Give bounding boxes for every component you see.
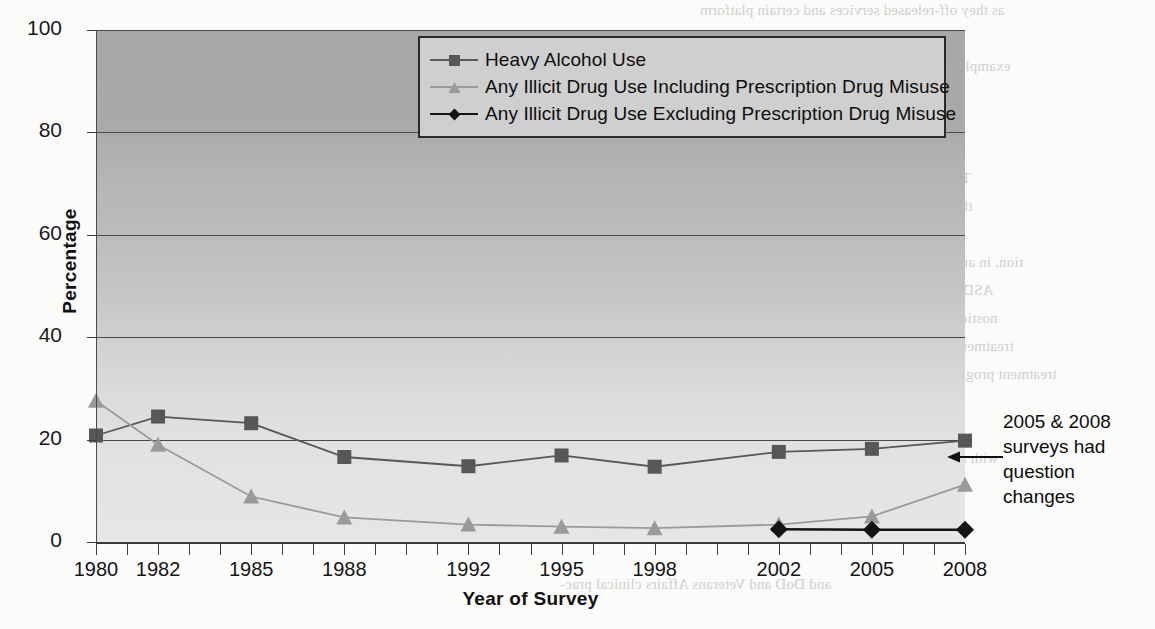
data-point-triangle <box>243 488 259 503</box>
y-axis-tick <box>87 132 96 133</box>
annotation-note: 2005 & 2008 surveys had question changes <box>1003 409 1151 509</box>
annotation-line: question <box>1003 459 1151 484</box>
data-point-triangle <box>957 477 973 492</box>
legend-marker-square <box>430 50 478 70</box>
legend-label: Any Illicit Drug Use Excluding Prescript… <box>485 103 956 125</box>
x-axis-tick <box>437 544 438 555</box>
x-axis-tick <box>779 544 780 555</box>
x-axis-tick-label: 1995 <box>539 558 584 581</box>
y-axis-line <box>96 30 97 542</box>
data-point-square <box>648 460 662 474</box>
data-point-square <box>958 434 972 448</box>
line-chart: 020406080100 Percentage 1980198219851988… <box>0 0 1155 629</box>
data-point-square <box>865 442 879 456</box>
x-axis-tick-label: 1998 <box>632 558 677 581</box>
x-axis-tick <box>406 544 407 555</box>
data-point-square <box>244 416 258 430</box>
y-axis-title: Percentage <box>59 151 81 371</box>
y-axis-tick <box>87 440 96 441</box>
x-axis-title: Year of Survey <box>96 588 965 610</box>
data-point-triangle <box>150 437 166 452</box>
x-axis-tick <box>220 544 221 555</box>
x-axis-tick <box>344 544 345 555</box>
annotation-line: surveys had <box>1003 434 1151 459</box>
x-axis-tick <box>903 544 904 555</box>
annotation-line: changes <box>1003 484 1151 509</box>
x-axis-tick <box>158 544 159 555</box>
x-axis-tick <box>655 544 656 555</box>
x-axis-tick <box>872 544 873 555</box>
x-axis-tick-label: 1988 <box>322 558 367 581</box>
legend-item[interactable]: Any Illicit Drug Use Including Prescript… <box>430 73 934 100</box>
x-axis-tick-label: 2005 <box>850 558 895 581</box>
x-axis-tick <box>282 544 283 555</box>
legend-label: Heavy Alcohol Use <box>485 49 646 71</box>
legend-item[interactable]: Heavy Alcohol Use <box>430 46 934 73</box>
x-axis-tick <box>841 544 842 555</box>
x-axis-tick-label: 1982 <box>136 558 181 581</box>
x-axis-tick <box>934 544 935 555</box>
x-axis-tick <box>593 544 594 555</box>
x-axis-tick-label: 1980 <box>74 558 119 581</box>
x-axis-tick <box>717 544 718 555</box>
series-square <box>89 410 972 474</box>
x-axis-tick <box>748 544 749 555</box>
y-axis-tick-label: 80 <box>2 118 62 142</box>
x-axis-tick-label: 2002 <box>757 558 802 581</box>
x-axis-tick <box>531 544 532 555</box>
series-line <box>96 401 965 528</box>
x-axis-tick <box>251 544 252 555</box>
y-axis-tick-label: 100 <box>2 16 62 40</box>
x-axis-tick <box>499 544 500 555</box>
data-point-square <box>555 448 569 462</box>
data-point-diamond <box>863 521 881 539</box>
y-axis-tick-label: 20 <box>2 426 62 450</box>
data-point-diamond <box>770 520 788 538</box>
y-axis-tick-label: 40 <box>2 323 62 347</box>
x-axis-tick <box>375 544 376 555</box>
series-line <box>96 417 965 467</box>
x-axis-tick-label: 1992 <box>446 558 491 581</box>
x-axis-tick-label: 1985 <box>229 558 274 581</box>
legend-marker-diamond <box>430 104 478 124</box>
y-axis-tick <box>87 337 96 338</box>
legend-item[interactable]: Any Illicit Drug Use Excluding Prescript… <box>430 100 934 127</box>
x-axis-tick <box>810 544 811 555</box>
x-axis-tick <box>562 544 563 555</box>
y-axis-tick <box>87 30 96 31</box>
x-axis-tick <box>468 544 469 555</box>
data-point-square <box>461 459 475 473</box>
y-axis-tick-label: 60 <box>2 221 62 245</box>
data-point-square <box>337 450 351 464</box>
x-axis-tick <box>624 544 625 555</box>
data-point-square <box>151 410 165 424</box>
data-point-square <box>772 445 786 459</box>
x-axis-tick <box>96 544 97 555</box>
y-axis-tick <box>87 542 96 543</box>
x-axis-tick <box>313 544 314 555</box>
y-axis-tick <box>87 235 96 236</box>
chart-legend: Heavy Alcohol Use Any Illicit Drug Use I… <box>418 36 946 138</box>
annotation-line: 2005 & 2008 <box>1003 409 1151 434</box>
x-axis-tick-label: 2008 <box>943 558 988 581</box>
legend-label: Any Illicit Drug Use Including Prescript… <box>485 76 950 98</box>
x-axis-tick <box>965 544 966 555</box>
annotation-arrow-icon <box>947 449 1003 465</box>
x-axis-tick <box>127 544 128 555</box>
series-triangle <box>88 393 973 535</box>
x-axis-tick <box>686 544 687 555</box>
legend-marker-triangle <box>430 77 478 97</box>
data-point-diamond <box>956 521 974 539</box>
y-axis-tick-label: 0 <box>2 528 62 552</box>
x-axis-tick <box>189 544 190 555</box>
